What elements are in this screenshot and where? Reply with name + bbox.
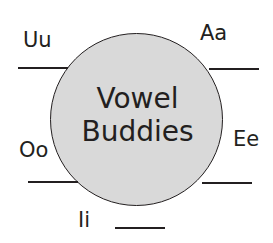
answer-line-ee [202,182,252,184]
vowel-label-oo: Oo [19,138,48,162]
vowel-label-uu: Uu [23,28,52,52]
answer-line-oo [28,181,78,183]
answer-line-ii [115,227,165,229]
vowel-buddies-diagram: Vowel Buddies Uu Aa Oo Ee Ii [0,0,273,243]
vowel-label-aa: Aa [200,21,227,45]
vowel-label-ii: Ii [78,208,90,232]
title-line-1: Vowel [50,82,225,115]
answer-line-uu [18,67,68,69]
vowel-label-ee: Ee [233,127,259,151]
title-line-2: Buddies [50,115,225,148]
diagram-title: Vowel Buddies [50,82,225,148]
answer-line-aa [209,68,259,70]
